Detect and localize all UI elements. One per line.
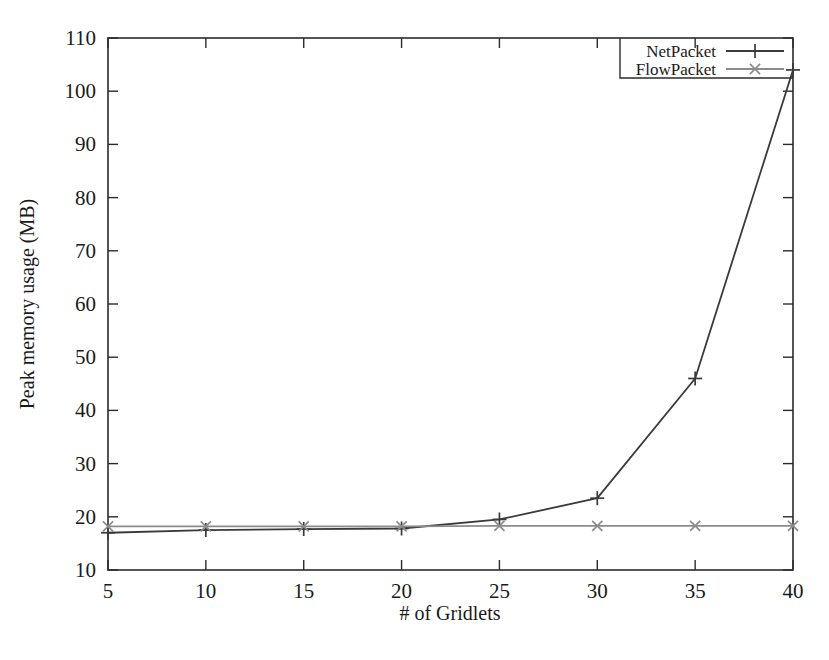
y-tick-label: 10 <box>75 558 96 582</box>
chart-background <box>0 0 829 660</box>
x-axis-title: # of Gridlets <box>399 602 500 624</box>
x-tick-label: 40 <box>783 579 804 603</box>
x-tick-label: 5 <box>103 579 114 603</box>
x-tick-label: 30 <box>587 579 608 603</box>
y-tick-label: 40 <box>75 398 96 422</box>
y-tick-label: 100 <box>65 79 97 103</box>
y-tick-label: 60 <box>75 292 96 316</box>
series-line <box>108 526 793 527</box>
legend-label-flowpacket: FlowPacket <box>636 60 717 79</box>
x-tick-label: 25 <box>489 579 510 603</box>
x-tick-label: 10 <box>195 579 216 603</box>
y-tick-label: 50 <box>75 345 96 369</box>
chart-figure: 102030405060708090100110 510152025303540… <box>0 0 829 660</box>
y-tick-label: 90 <box>75 132 96 156</box>
y-axis-title: Peak memory usage (MB) <box>16 199 39 410</box>
y-tick-label: 110 <box>65 26 96 50</box>
y-tick-label: 20 <box>75 505 96 529</box>
x-tick-label: 15 <box>293 579 314 603</box>
x-tick-label: 35 <box>685 579 706 603</box>
x-tick-label: 20 <box>391 579 412 603</box>
y-tick-label: 80 <box>75 186 96 210</box>
line-chart-svg: 102030405060708090100110 510152025303540… <box>0 0 829 660</box>
y-tick-label: 70 <box>75 239 96 263</box>
y-tick-label: 30 <box>75 452 96 476</box>
legend-label-netpacket: NetPacket <box>646 42 716 61</box>
